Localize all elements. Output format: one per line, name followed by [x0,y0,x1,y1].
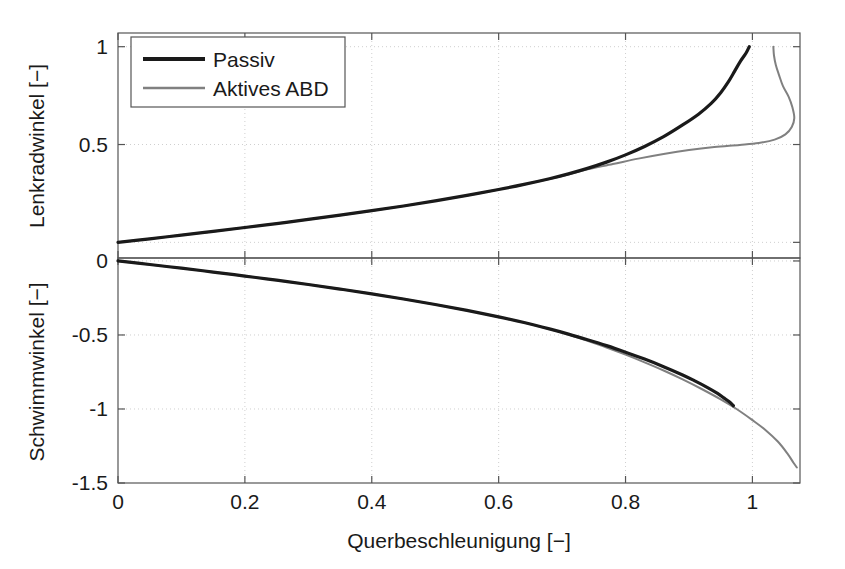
y-axis-label-upper: Lenkradwinkel [−] [25,64,48,228]
y-tick-label-lower: -1.5 [72,471,108,494]
x-tick-label: 0.6 [484,490,513,513]
legend-label-passiv: Passiv [213,48,275,71]
y-tick-label-upper: 1 [96,35,108,58]
y-tick-label-lower: -1 [89,397,108,420]
y-tick-label-lower: -0.5 [72,323,108,346]
chart-canvas: 00.20.40.60.810.51-1.5-1-0.50 Lenkradwin… [0,0,845,569]
x-tick-label: 0 [112,490,124,513]
legend-label-aktives-abd: Aktives ABD [213,77,329,100]
y-tick-label-lower: 0 [96,249,108,272]
x-tick-label: 0.4 [357,490,387,513]
figure-background [0,0,845,569]
x-tick-label: 0.8 [611,490,640,513]
x-tick-label: 0.2 [230,490,259,513]
y-axis-label-lower: Schwimmwinkel [−] [25,282,48,461]
chart-figure: 00.20.40.60.810.51-1.5-1-0.50 Lenkradwin… [0,0,845,569]
x-tick-label: 1 [747,490,759,513]
x-axis-label: Querbeschleunigung [−] [347,529,571,552]
chart-legend: Passiv Aktives ABD [131,37,345,107]
y-tick-label-upper: 0.5 [79,133,108,156]
